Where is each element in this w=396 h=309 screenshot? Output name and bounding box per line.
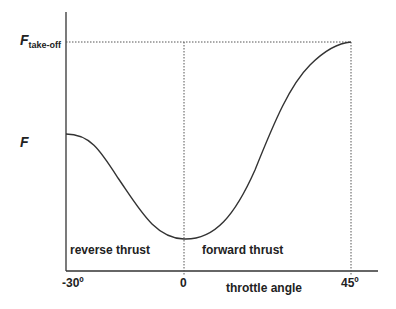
x-tick-45: 45º xyxy=(341,276,359,290)
f-label: F xyxy=(20,134,29,150)
x-axis-label: throttle angle xyxy=(226,281,302,295)
x-tick-neg30: -30º xyxy=(62,276,84,290)
forward-thrust-label: forward thrust xyxy=(202,243,283,257)
f-takeoff-label: Ftake-off xyxy=(20,32,61,50)
thrust-curve xyxy=(66,42,351,239)
reverse-thrust-label: reverse thrust xyxy=(70,243,150,257)
x-tick-0: 0 xyxy=(180,276,187,290)
